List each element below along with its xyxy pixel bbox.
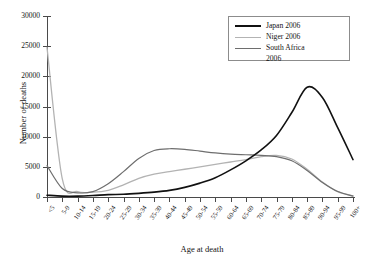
legend-label-south-africa: South Africa 2006	[266, 43, 305, 64]
series-line	[47, 149, 353, 196]
series-line	[47, 47, 353, 195]
legend-swatch-south-africa	[235, 43, 261, 53]
series-line	[47, 87, 353, 197]
legend-item-niger: Niger 2006	[235, 32, 300, 43]
legend-swatch-japan	[235, 21, 261, 31]
chart-legend: Japan 2006 Niger 2006 South Africa 2006	[228, 16, 350, 61]
legend-swatch-niger	[235, 32, 261, 42]
legend-label-niger: Niger 2006	[266, 32, 300, 43]
legend-label-japan: Japan 2006	[266, 21, 300, 32]
legend-item-japan: Japan 2006	[235, 21, 300, 32]
chart-container: Number of deaths Age at death 0500010000…	[0, 0, 367, 264]
legend-item-south-africa: South Africa 2006	[235, 43, 305, 54]
